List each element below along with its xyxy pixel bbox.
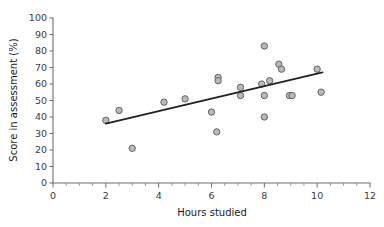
data-point [237,84,243,90]
plot-area: 0102030405060708090100 024681012 Hours s… [0,0,384,227]
data-point [261,43,267,49]
data-point [129,145,135,151]
x-tick-label: 8 [261,190,267,201]
y-axis-title: Score in assessment (%) [8,38,19,161]
data-point [214,129,220,135]
y-tick-label: 40 [35,111,47,122]
y-tick-label: 0 [41,177,47,188]
y-tick-label: 60 [35,78,47,89]
data-point [314,66,320,72]
data-point [182,96,188,102]
data-point [237,92,243,98]
y-tick-label: 10 [35,161,47,172]
x-tick-label: 4 [156,190,162,201]
x-tick-label: 12 [364,190,376,201]
data-point [266,78,272,84]
x-tick-label: 0 [50,190,56,201]
data-points-group [103,43,325,152]
x-tick-label: 10 [311,190,323,201]
data-point [278,66,284,72]
y-tick-label: 90 [35,29,47,40]
y-tick-label: 70 [35,62,47,73]
x-axis-group: 024681012 [50,183,376,201]
y-tick-label: 50 [35,95,47,106]
data-point [261,92,267,98]
y-tick-label: 30 [35,128,47,139]
scatter-chart: 0102030405060708090100 024681012 Hours s… [0,0,384,227]
data-point [161,99,167,105]
data-point [215,78,221,84]
y-tick-label: 100 [29,12,47,23]
data-point [261,114,267,120]
y-tick-label: 80 [35,45,47,56]
data-point [208,109,214,115]
x-tick-label: 2 [103,190,109,201]
y-axis-group: 0102030405060708090100 [29,12,53,188]
data-point [289,92,295,98]
x-axis-title: Hours studied [177,207,247,218]
y-tick-label: 20 [35,144,47,155]
data-point [318,89,324,95]
x-tick-label: 6 [208,190,214,201]
data-point [116,107,122,113]
